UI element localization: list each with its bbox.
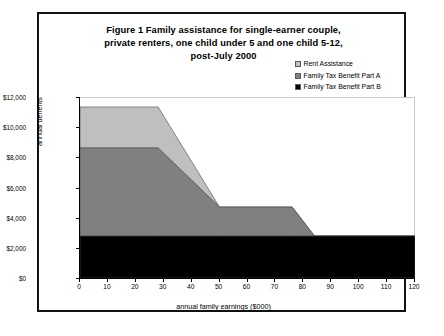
x-axis-tick-mark: [302, 279, 303, 282]
figure-frame: Figure 1 Family assistance for single-ea…: [37, 12, 406, 312]
x-axis-tick-label: 120: [402, 283, 426, 290]
legend-item-label: Family Tax Benefit Part A: [304, 71, 381, 82]
x-axis-tick-label: 90: [318, 283, 342, 290]
x-axis-tick-mark: [135, 279, 136, 282]
x-axis-tick-mark: [163, 279, 164, 282]
x-axis-tick-mark: [330, 279, 331, 282]
x-axis-tick-label: 0: [67, 283, 91, 290]
plot-area: [79, 97, 415, 279]
x-axis-tick-label: 80: [290, 283, 314, 290]
x-axis-tick-label: 30: [151, 283, 175, 290]
legend-swatch-icon: [295, 84, 301, 90]
y-axis-tick-label: $2,000: [6, 244, 26, 251]
chart-legend: Rent AssistanceFamily Tax Benefit Part A…: [295, 59, 381, 94]
y-axis-tick-label: $10,000: [3, 124, 26, 131]
x-axis-tick-mark: [414, 279, 415, 282]
legend-item-label: Rent Assistance: [304, 59, 353, 70]
x-axis-tick-label: 40: [179, 283, 203, 290]
x-axis-tick-mark: [274, 279, 275, 282]
area-band: [80, 148, 415, 236]
y-axis-label: annual benefits: [35, 97, 44, 146]
x-axis-tick-mark: [358, 279, 359, 282]
y-axis-tick-label: $12,000: [3, 94, 26, 101]
legend-item: Family Tax Benefit Part A: [295, 71, 381, 82]
x-axis-tick-label: 70: [262, 283, 286, 290]
legend-swatch-icon: [295, 73, 301, 79]
x-axis-tick-mark: [386, 279, 387, 282]
area-band: [80, 236, 415, 278]
x-axis-tick-label: 60: [235, 283, 259, 290]
legend-item: Rent Assistance: [295, 59, 381, 70]
x-axis-tick-label: 50: [207, 283, 231, 290]
legend-swatch-icon: [295, 61, 301, 67]
chart-title: Figure 1 Family assistance for single-ea…: [39, 24, 408, 64]
x-axis-tick-label: 20: [123, 283, 147, 290]
chart-title-line-2: private renters, one child under 5 and o…: [39, 37, 408, 50]
x-axis-tick-label: 110: [374, 283, 398, 290]
x-axis-label: annual family earnings ($000): [39, 302, 408, 311]
y-axis-tick-label: $6,000: [6, 184, 26, 191]
x-axis-tick-mark: [219, 279, 220, 282]
x-axis-tick-mark: [191, 279, 192, 282]
y-axis-tick-label: $0: [19, 275, 26, 282]
y-axis-tick-label: $8,000: [6, 154, 26, 161]
chart-title-line-1: Figure 1 Family assistance for single-ea…: [39, 24, 408, 37]
x-axis-tick-label: 10: [95, 283, 119, 290]
stacked-area-series: [80, 97, 415, 278]
x-axis-tick-mark: [247, 279, 248, 282]
x-axis-tick-mark: [79, 279, 80, 282]
x-axis-tick-label: 100: [346, 283, 370, 290]
legend-item: Family Tax Benefit Part B: [295, 82, 381, 93]
y-axis-tick-label: $4,000: [6, 214, 26, 221]
x-axis-tick-mark: [107, 279, 108, 282]
legend-item-label: Family Tax Benefit Part B: [304, 82, 381, 93]
